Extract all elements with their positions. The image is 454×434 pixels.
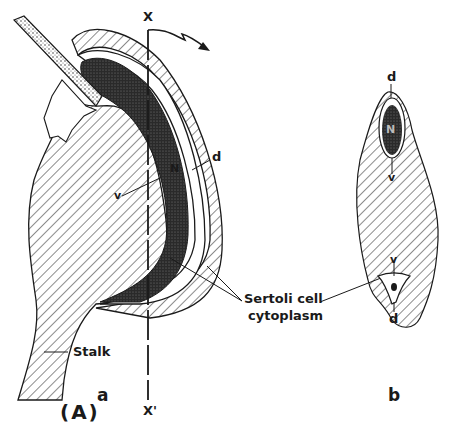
rotation-arrow (148, 30, 206, 48)
ventral-bottom-label-b: v (390, 254, 397, 265)
stalk-label: Stalk (73, 345, 110, 358)
nucleus-label-a: N (170, 163, 179, 174)
ventral-label-a: v (114, 190, 121, 201)
tail-core-b (391, 283, 397, 291)
subfigure-b-label: b (388, 387, 400, 404)
axis-x-bottom-label: X' (143, 404, 157, 417)
subfigure-a (14, 16, 386, 400)
axis-x-top-label: X (143, 10, 153, 23)
nucleus-label-b: N (386, 124, 395, 135)
ventral-top-label-b: v (388, 172, 395, 183)
sertoli-label-line2: cytoplasm (248, 309, 323, 322)
dorsal-bottom-label-b: d (389, 312, 398, 325)
diagram-canvas (0, 0, 454, 434)
sertoli-label-line1: Sertoli cell (244, 292, 323, 305)
subfigure-b (357, 84, 438, 327)
panel-label: (A) (60, 402, 100, 422)
dorsal-top-label-b: d (387, 70, 396, 83)
dorsal-label-a: d (212, 150, 221, 163)
